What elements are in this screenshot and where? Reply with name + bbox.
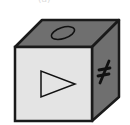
cube-front-face	[15, 47, 92, 121]
cube-diagram	[0, 0, 130, 125]
